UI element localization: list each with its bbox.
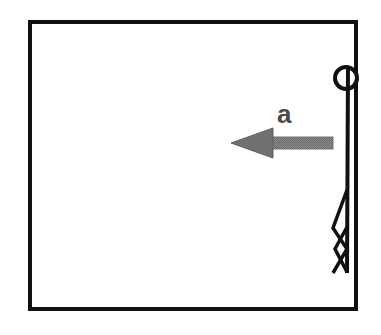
- standing-person: [333, 67, 357, 273]
- acceleration-label: a: [277, 101, 291, 127]
- acceleration-arrow: [231, 128, 333, 158]
- enclosure-box: [30, 22, 356, 309]
- arrow-shaft: [272, 137, 333, 149]
- arrow-head: [231, 128, 273, 158]
- physics-diagram-canvas: a: [0, 0, 381, 335]
- diagram-vector-layer: [0, 0, 381, 335]
- person-torso: [347, 67, 348, 273]
